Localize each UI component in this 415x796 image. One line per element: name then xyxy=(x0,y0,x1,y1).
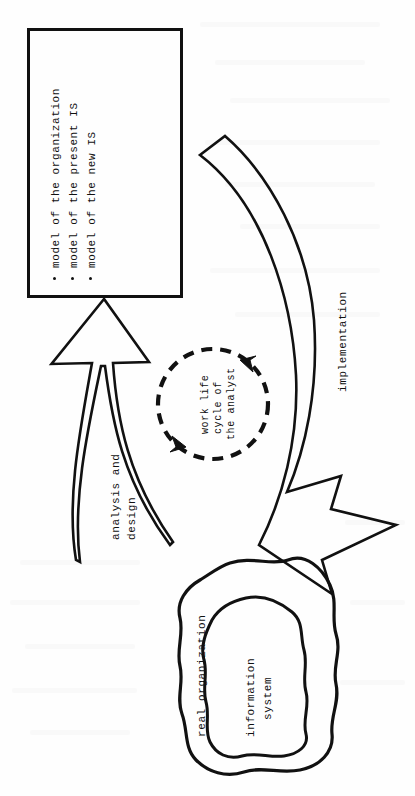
cycle-label-line-3: the analyst xyxy=(226,367,239,440)
bullet-dot-3 xyxy=(89,277,92,280)
analysis-and-design-label-line-1: analysis and xyxy=(110,454,124,540)
information-system-label-line-2: system xyxy=(262,677,276,720)
bullet-dot-2 xyxy=(71,277,74,280)
real-organization-label: real organization xyxy=(196,615,210,737)
model-item-label-1: model of the organization xyxy=(50,88,64,268)
analysis-and-design-label-line-2: design xyxy=(126,497,140,540)
implementation-label: implementation xyxy=(337,291,351,392)
model-item-label-3: model of the new IS xyxy=(86,131,100,268)
model-item-label-2: model of the present IS xyxy=(68,102,82,268)
cycle-label-line-2: cycle of xyxy=(213,381,226,434)
bullet-dot-1 xyxy=(53,277,56,280)
information-system-label-line-1: information xyxy=(245,658,259,737)
cycle-label-line-1: work life xyxy=(200,375,213,434)
implementation-block-arrow xyxy=(200,136,396,594)
figure-root: model of the organization model of the p… xyxy=(0,0,415,796)
